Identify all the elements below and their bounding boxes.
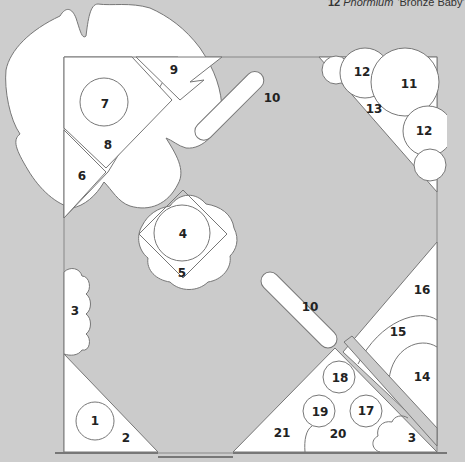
label-2: 2 bbox=[122, 431, 130, 445]
label-10-bottom: 10 bbox=[302, 300, 319, 314]
plant-small-right bbox=[414, 149, 446, 181]
label-8: 8 bbox=[104, 138, 112, 152]
label-17: 17 bbox=[358, 404, 375, 418]
label-12-top: 12 bbox=[354, 65, 371, 79]
label-21: 21 bbox=[274, 426, 291, 440]
label-7: 7 bbox=[101, 97, 109, 111]
label-14: 14 bbox=[414, 370, 431, 384]
label-4: 4 bbox=[179, 227, 187, 241]
label-20: 20 bbox=[330, 427, 347, 441]
label-11: 11 bbox=[401, 77, 418, 91]
label-9: 9 bbox=[170, 63, 178, 77]
label-3-bottom: 3 bbox=[408, 431, 416, 445]
label-1: 1 bbox=[91, 414, 99, 428]
label-10-top: 10 bbox=[264, 91, 281, 105]
label-16: 16 bbox=[414, 283, 431, 297]
label-12-right: 12 bbox=[416, 124, 433, 138]
label-13: 13 bbox=[366, 102, 383, 116]
label-5: 5 bbox=[178, 266, 186, 280]
label-3-left: 3 bbox=[71, 304, 79, 318]
label-18: 18 bbox=[332, 371, 349, 385]
label-19: 19 bbox=[312, 405, 329, 419]
label-6: 6 bbox=[78, 169, 86, 183]
label-15: 15 bbox=[390, 325, 407, 339]
